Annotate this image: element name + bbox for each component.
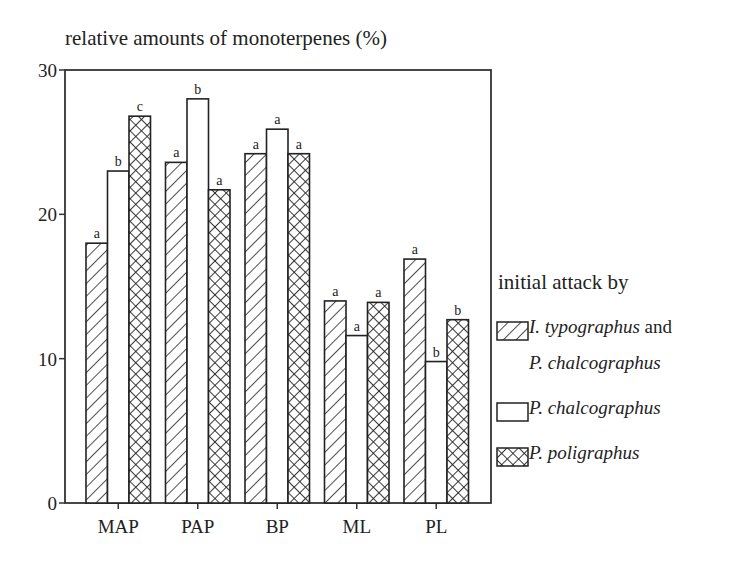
bar [209, 190, 231, 503]
bar [267, 129, 289, 503]
bar [86, 243, 108, 503]
significance-label: b [454, 303, 461, 318]
legend-item-typographus-chalcographus: I. typographus and P. chalcographus [496, 318, 732, 381]
significance-label: a [173, 145, 180, 160]
bar [245, 154, 267, 503]
x-tick-label: BP [266, 516, 289, 537]
x-tick-label: ML [343, 516, 372, 537]
legend: initial attack by I. typographus and P. … [496, 270, 732, 489]
significance-label: a [274, 112, 281, 127]
significance-label: a [216, 173, 223, 188]
bars: abcabaaaaaaaabb [86, 82, 469, 503]
legend-label: P. poligraphus [529, 442, 640, 463]
y-tick-label: 30 [38, 60, 57, 81]
bar [325, 301, 347, 503]
bar [426, 362, 448, 503]
bar [166, 162, 188, 503]
significance-label: a [332, 284, 339, 299]
legend-title: initial attack by [498, 270, 732, 295]
y-tick-label: 0 [48, 493, 58, 514]
significance-label: a [94, 226, 101, 241]
y-tick-label: 10 [38, 349, 57, 370]
significance-label: b [194, 82, 201, 97]
legend-item-chalcographus: P. chalcographus [496, 399, 732, 426]
cross-hatch-swatch-icon [496, 447, 529, 467]
significance-label: a [412, 242, 419, 257]
significance-label: a [375, 285, 382, 300]
significance-label: c [137, 99, 143, 114]
empty-swatch-icon [496, 402, 529, 422]
significance-label: b [115, 154, 122, 169]
bar [129, 116, 151, 503]
significance-label: a [296, 137, 303, 152]
legend-label: P. chalcographus [529, 397, 661, 418]
significance-label: a [354, 319, 361, 334]
bar [108, 171, 130, 503]
bar [404, 259, 426, 503]
diagonal-hatch-swatch-icon [496, 321, 529, 341]
bar [368, 302, 390, 503]
legend-label-line2: P. chalcographus [529, 352, 661, 373]
bar [346, 336, 368, 503]
legend-label-suffix: and [640, 316, 672, 337]
significance-label: b [433, 345, 440, 360]
bar [187, 99, 209, 503]
x-tick-label: PL [425, 516, 447, 537]
y-tick-label: 20 [38, 204, 57, 225]
bar [447, 320, 469, 503]
bar [288, 154, 310, 503]
chart-title: relative amounts of monoterpenes (%) [65, 26, 387, 50]
legend-label: I. typographus [529, 316, 640, 337]
x-tick-label: PAP [181, 516, 214, 537]
significance-label: a [253, 137, 260, 152]
x-tick-label: MAP [98, 516, 139, 537]
legend-item-poligraphus: P. poligraphus [496, 444, 732, 471]
